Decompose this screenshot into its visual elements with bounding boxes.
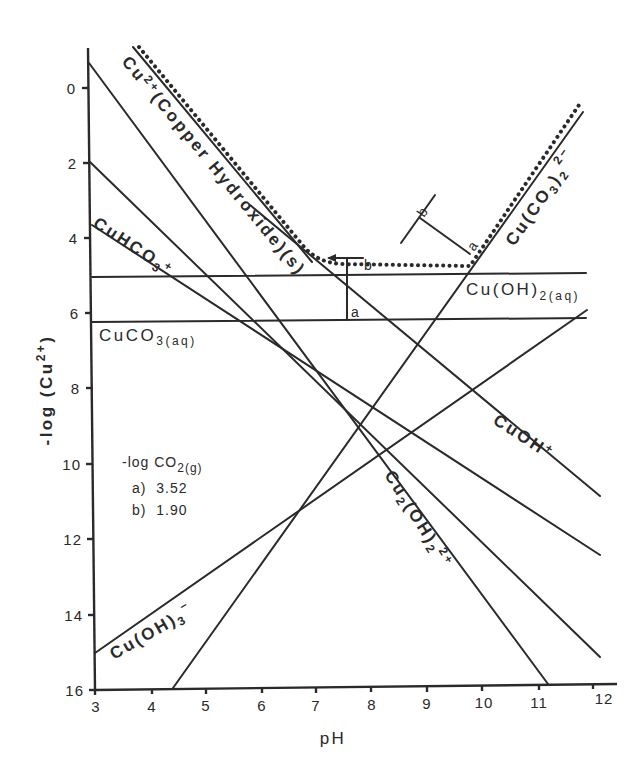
label-cuoh: CuOH+ — [490, 409, 558, 463]
svg-text:3: 3 — [91, 698, 100, 715]
plot-lines — [89, 47, 600, 688]
svg-text:2: 2 — [68, 155, 77, 172]
label-cuoh3: Cu(OH)3− — [105, 597, 199, 666]
label-cuco32: Cu(CO3)22− — [497, 144, 584, 251]
marker-perp-arrow — [420, 218, 470, 254]
svg-text:12: 12 — [595, 690, 614, 707]
species-labels: Cu2+(Copper Hydroxide)(s) CuHCO3+ CuCO3(… — [88, 51, 584, 666]
svg-text:8: 8 — [71, 380, 80, 397]
svg-text:8: 8 — [367, 696, 376, 713]
svg-text:14: 14 — [64, 607, 83, 624]
svg-text:6: 6 — [70, 305, 79, 322]
y-axis — [88, 48, 95, 690]
svg-text:10: 10 — [62, 456, 81, 473]
svg-text:10: 10 — [475, 694, 494, 711]
speciation-chart: 0 2 4 6 8 10 12 14 16 3 4 5 6 — [0, 0, 644, 778]
legend-title: -log CO2(g) — [122, 454, 203, 475]
svg-text:Cu2(OH)22+: Cu2(OH)22+ — [378, 466, 457, 573]
label-cu2oh2: Cu2(OH)22+ — [378, 466, 457, 573]
svg-text:CuOH+: CuOH+ — [490, 409, 558, 463]
svg-text:12: 12 — [63, 531, 82, 548]
x-tick-labels: 3 4 5 6 7 8 9 10 11 12 — [91, 690, 613, 715]
marker-perp-tbar — [401, 195, 435, 243]
legend: -log CO2(g) a) 3.52 b) 1.90 — [122, 454, 203, 518]
svg-text:4: 4 — [147, 698, 156, 715]
arrowhead-b — [327, 254, 336, 262]
svg-text:7: 7 — [311, 697, 320, 714]
line-cuco3-aq — [92, 318, 586, 322]
svg-text:6: 6 — [257, 697, 266, 714]
marker-a-label: a — [351, 304, 360, 320]
svg-text:-log (Cu2+): -log (Cu2+) — [34, 334, 56, 445]
x-axis-label: pH — [320, 729, 347, 748]
line-cu2-steep — [89, 63, 548, 684]
svg-text:Cu(CO3)22−: Cu(CO3)22− — [497, 144, 584, 251]
svg-text:4: 4 — [69, 230, 78, 247]
svg-text:11: 11 — [530, 694, 548, 711]
label-cuco3-aq: CuCO3(aq) — [99, 326, 197, 348]
label-cuoh2-aq: Cu(OH)2(aq) — [466, 280, 580, 303]
svg-text:0: 0 — [67, 80, 76, 97]
legend-entry-b: b) 1.90 — [132, 502, 187, 518]
svg-text:Cu(OH)3−: Cu(OH)3− — [105, 597, 199, 666]
svg-text:9: 9 — [422, 695, 431, 712]
y-tick-labels: 0 2 4 6 8 10 12 14 16 — [62, 80, 84, 699]
marker-b-label: b — [364, 257, 373, 273]
y-axis-label: -log (Cu2+) — [34, 334, 56, 445]
svg-text:16: 16 — [65, 682, 84, 699]
svg-text:5: 5 — [201, 697, 210, 714]
legend-entry-a: a) 3.52 — [132, 480, 187, 496]
marker-b-label-2: b — [413, 203, 431, 219]
